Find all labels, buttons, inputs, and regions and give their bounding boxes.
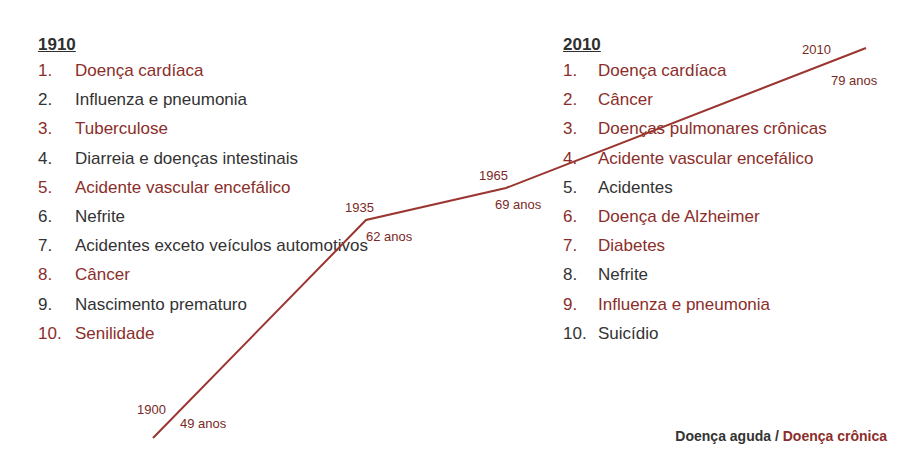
legend-acute: Doença aguda xyxy=(675,428,771,444)
year-label-1900: 1900 xyxy=(137,402,166,417)
causes-list-1910: 1.Doença cardíaca 2.Influenza e pneumoni… xyxy=(38,56,368,348)
list-item: 3.Doenças pulmonares crônicas xyxy=(563,114,827,143)
list-item: 6.Doença de Alzheimer xyxy=(563,202,827,231)
list-item: 2.Câncer xyxy=(563,85,827,114)
list-item: 7.Acidentes exceto veículos automotivos xyxy=(38,231,368,260)
list-item: 2.Influenza e pneumonia xyxy=(38,85,368,114)
list-2010: 2010 1.Doença cardíaca 2.Câncer 3.Doença… xyxy=(563,34,827,348)
age-label-1935: 62 anos xyxy=(366,229,412,244)
list-item: 8.Câncer xyxy=(38,260,368,289)
list-item: 9.Nascimento prematuro xyxy=(38,290,368,319)
legend-chronic: Doença crônica xyxy=(783,428,887,444)
list-item: 10.Suicídio xyxy=(563,319,827,348)
list-item: 6.Nefrite xyxy=(38,202,368,231)
list-item: 4.Diarreia e doenças intestinais xyxy=(38,144,368,173)
list-item: 5.Acidente vascular encefálico xyxy=(38,173,368,202)
legend-separator: / xyxy=(771,428,783,444)
list-item: 5.Acidentes xyxy=(563,173,827,202)
list-item: 8.Nefrite xyxy=(563,260,827,289)
list-item: 9.Influenza e pneumonia xyxy=(563,290,827,319)
list-item: 10.Senilidade xyxy=(38,319,368,348)
age-label-1965: 69 anos xyxy=(495,197,541,212)
heading-1910: 1910 xyxy=(38,34,368,56)
heading-2010: 2010 xyxy=(563,34,827,56)
list-1910: 1910 1.Doença cardíaca 2.Influenza e pne… xyxy=(38,34,368,348)
legend: Doença aguda / Doença crônica xyxy=(675,428,887,444)
list-item: 1.Doença cardíaca xyxy=(563,56,827,85)
year-label-2010: 2010 xyxy=(802,42,831,57)
list-item: 3.Tuberculose xyxy=(38,114,368,143)
list-item: 4.Acidente vascular encefálico xyxy=(563,144,827,173)
age-label-1900: 49 anos xyxy=(180,416,226,431)
list-item: 7.Diabetes xyxy=(563,231,827,260)
year-label-1935: 1935 xyxy=(345,200,374,215)
causes-list-2010: 1.Doença cardíaca 2.Câncer 3.Doenças pul… xyxy=(563,56,827,348)
age-label-2010: 79 anos xyxy=(831,73,877,88)
year-label-1965: 1965 xyxy=(479,168,508,183)
list-item: 1.Doença cardíaca xyxy=(38,56,368,85)
